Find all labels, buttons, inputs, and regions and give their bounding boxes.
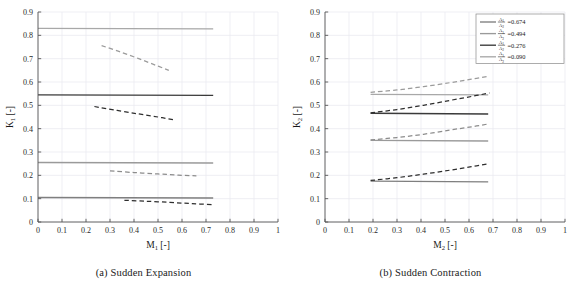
y-tick-label: 0.7: [310, 55, 320, 64]
tick-labels: 00.10.20.30.40.50.60.70.80.9100.10.20.30…: [23, 8, 280, 235]
x-tick-label: 0.1: [57, 226, 67, 235]
legend-entry-value: =0.090: [508, 53, 526, 60]
x-axis-label: M1 [-]: [146, 240, 170, 251]
y-tick-label: 0.2: [23, 171, 33, 180]
y-axis-label: K2 [-]: [292, 106, 303, 128]
x-tick-label: 0.5: [440, 226, 450, 235]
y-tick-label: 0.8: [23, 31, 33, 40]
x-tick-label: 0.9: [249, 226, 259, 235]
x-tick-label: 0.3: [392, 226, 402, 235]
x-tick-label: 0.6: [177, 226, 187, 235]
y-tick-label: 0.6: [310, 78, 320, 87]
y-tick-label: 0.6: [23, 78, 33, 87]
y-tick-label: 0: [316, 218, 320, 227]
x-tick-label: 0.4: [129, 226, 139, 235]
x-tick-label: 1: [563, 226, 567, 235]
y-tick-label: 0.8: [310, 31, 320, 40]
x-tick-label: 0.9: [536, 226, 546, 235]
y-tick-label: 0: [29, 218, 33, 227]
y-tick-label: 0.1: [310, 195, 320, 204]
x-tick-label: 0.1: [344, 226, 354, 235]
y-tick-label: 0.1: [23, 195, 33, 204]
x-tick-label: 0.8: [512, 226, 522, 235]
x-tick-label: 0.6: [464, 226, 474, 235]
y-tick-label: 0.9: [23, 8, 33, 17]
x-tick-label: 0.2: [368, 226, 378, 235]
x-tick-label: 0.8: [225, 226, 235, 235]
series-line: [371, 164, 490, 181]
x-tick-label: 1: [276, 226, 280, 235]
x-axis-label: M2 [-]: [433, 240, 457, 251]
caption-sudden-expansion: (a) Sudden Expansion: [0, 267, 287, 278]
x-tick-label: 0.3: [105, 226, 115, 235]
series-line: [371, 76, 490, 92]
legend-entry-value: =0.276: [508, 42, 526, 49]
plot-sudden-expansion: 00.10.20.30.40.50.60.70.80.9100.10.20.30…: [0, 0, 287, 258]
data-series-group: [38, 28, 213, 204]
series-line: [371, 93, 490, 113]
series-line: [371, 140, 489, 141]
legend-entry-value: =0.674: [508, 18, 527, 25]
y-tick-label: 0.5: [310, 101, 320, 110]
y-tick-label: 0.3: [23, 148, 33, 157]
series-line: [371, 124, 490, 140]
figure-root: 00.10.20.30.40.50.60.70.80.9100.10.20.30…: [0, 0, 574, 284]
x-tick-label: 0.4: [416, 226, 426, 235]
y-tick-label: 0.9: [310, 8, 320, 17]
legend: A1A2=0.674A1A2=0.494A1A2=0.276A1A2=0.090: [476, 14, 564, 64]
y-axis-label: K1 [-]: [5, 106, 16, 128]
x-tick-label: 0: [36, 226, 40, 235]
panel-sudden-contraction: 00.10.20.30.40.50.60.70.80.9100.10.20.30…: [287, 0, 574, 284]
y-tick-label: 0.7: [23, 55, 33, 64]
caption-sudden-contraction: (b) Sudden Contraction: [287, 267, 574, 278]
x-tick-label: 0.7: [201, 226, 211, 235]
y-tick-label: 0.2: [310, 171, 320, 180]
x-tick-label: 0.7: [488, 226, 498, 235]
panel-sudden-expansion: 00.10.20.30.40.50.60.70.80.9100.10.20.30…: [0, 0, 287, 284]
x-tick-label: 0.5: [153, 226, 163, 235]
x-tick-label: 0: [323, 226, 327, 235]
y-tick-label: 0.3: [310, 148, 320, 157]
series-line: [102, 46, 169, 71]
legend-entry-value: =0.494: [508, 30, 527, 37]
series-line: [371, 181, 489, 182]
y-tick-label: 0.4: [23, 125, 33, 134]
y-tick-label: 0.5: [23, 101, 33, 110]
data-series-group: [371, 76, 490, 182]
x-tick-label: 0.2: [81, 226, 91, 235]
series-line: [124, 200, 213, 204]
y-tick-label: 0.4: [310, 125, 320, 134]
series-line: [371, 113, 489, 114]
plot-sudden-contraction: 00.10.20.30.40.50.60.70.80.9100.10.20.30…: [287, 0, 574, 258]
